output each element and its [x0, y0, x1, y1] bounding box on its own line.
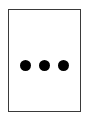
more-options-button[interactable]: more-horizontal-icon	[8, 9, 81, 112]
more-options-icon-name: more-horizontal-icon	[9, 10, 10, 11]
dot-icon	[39, 60, 50, 71]
dot-icon	[20, 60, 31, 71]
more-horizontal-icon	[9, 60, 80, 71]
dot-icon	[58, 60, 69, 71]
